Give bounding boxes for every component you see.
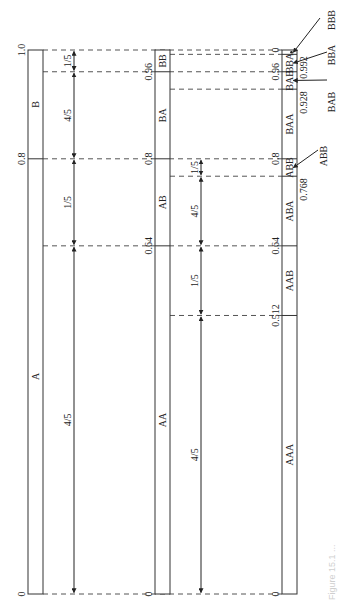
col1-bar xyxy=(28,50,43,594)
tick-label: 0.8 xyxy=(143,153,154,166)
segment-label-bba: BBA xyxy=(284,52,295,73)
segment-marker xyxy=(290,51,293,54)
callout-labels: BBBBBABABABB xyxy=(294,10,338,168)
dimension-arrows: 4/51/54/51/54/51/54/51/5 xyxy=(62,52,201,593)
segment-label-abb: ABB xyxy=(284,157,295,178)
tick-label-right: 0.768 xyxy=(298,178,309,201)
fraction-label: 1/5 xyxy=(189,161,200,174)
tick-label: 0.64 xyxy=(143,237,154,255)
segment-label-b: B xyxy=(30,101,41,108)
tick-label: 0.96 xyxy=(143,63,154,81)
col2-bar xyxy=(155,50,170,594)
callout-bba: BBA xyxy=(326,44,337,65)
tick-label: 0.8 xyxy=(270,153,281,166)
fraction-label: 1/5 xyxy=(62,196,73,209)
tick-label: 0 xyxy=(270,592,281,597)
tick-label: 0.96 xyxy=(270,63,281,81)
fraction-label: 1/5 xyxy=(62,54,73,67)
callout-abb: ABB xyxy=(318,145,329,166)
segment-label-aa: AA xyxy=(157,412,168,427)
segment-label-baa: BAA xyxy=(284,113,295,135)
callout-bbb: BBB xyxy=(326,10,337,30)
figure-caption: Figure 15.1 ... xyxy=(327,544,337,600)
segment-label-aab: AAB xyxy=(284,270,295,291)
tick-label: 0 xyxy=(143,592,154,597)
fraction-label: 4/5 xyxy=(189,448,200,461)
segment-label-bb: BB xyxy=(157,54,168,68)
tick-label: 0 xyxy=(16,592,27,597)
segment-label-ba: BA xyxy=(157,108,168,123)
fraction-label: 4/5 xyxy=(62,414,73,427)
segment-label-a: A xyxy=(30,372,41,380)
fraction-label: 1/5 xyxy=(189,274,200,287)
segment-label-ab: AB xyxy=(157,195,168,209)
callout-leader xyxy=(294,18,321,52)
tick-label-right: 0.928 xyxy=(298,91,309,114)
segment-label-aaa: AAA xyxy=(284,443,295,465)
tick-label: 0.8 xyxy=(16,153,27,166)
fraction-label: 4/5 xyxy=(189,205,200,218)
fraction-label: 4/5 xyxy=(62,109,73,122)
tick-label: 0.64 xyxy=(270,237,281,255)
interval-subdivision-diagram: ABAAABBABBAAAAABABAABBBAABABBBA 4/51/54/… xyxy=(0,0,345,611)
tick-label: 0 xyxy=(270,48,281,53)
segment-label-aba: ABA xyxy=(284,200,295,222)
interval-bars: ABAAABBABBAAAAABABAABBBAABABBBA xyxy=(28,50,297,594)
tick-label: 0.512 xyxy=(270,304,281,327)
tick-label: 1.0 xyxy=(16,44,27,57)
callout-bab: BAB xyxy=(326,91,337,112)
